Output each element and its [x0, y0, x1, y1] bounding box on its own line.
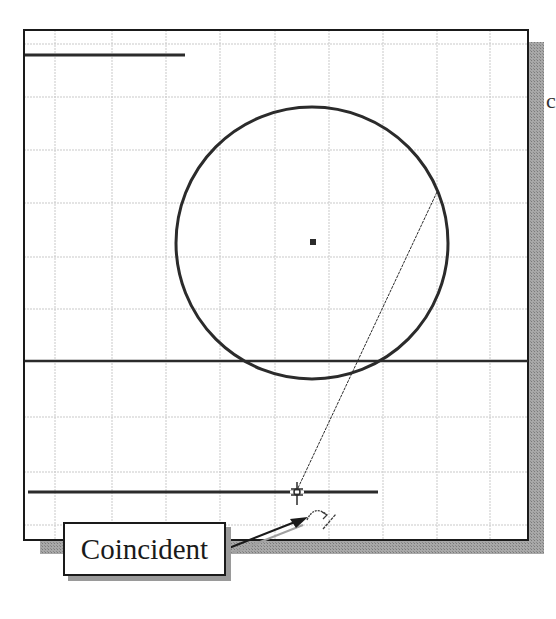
edge-text-fragment: c — [546, 88, 556, 114]
sketch-area — [24, 30, 528, 540]
callout-label: Coincident — [81, 533, 208, 566]
circle-center-point[interactable] — [310, 239, 316, 245]
coincident-callout: Coincident — [63, 522, 226, 576]
